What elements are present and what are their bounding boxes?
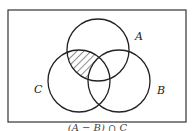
label-a: A — [135, 30, 143, 43]
label-b: B — [157, 84, 165, 97]
venn-diagram — [0, 0, 195, 131]
label-c: C — [34, 83, 42, 96]
caption: (A − B) ∩ C — [0, 122, 195, 131]
